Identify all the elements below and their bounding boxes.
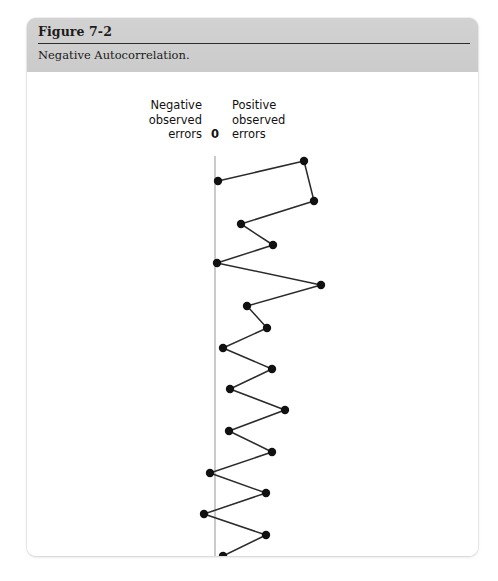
data-point	[262, 489, 270, 497]
data-point	[237, 220, 245, 228]
data-point	[226, 385, 234, 393]
data-point	[268, 448, 276, 456]
data-point	[262, 531, 270, 539]
error-series-line	[204, 161, 321, 556]
figure-caption: Negative Autocorrelation.	[38, 48, 190, 62]
figure-card: Figure 7-2 Negative Autocorrelation. Neg…	[27, 18, 478, 556]
data-point	[213, 259, 221, 267]
data-point	[200, 510, 208, 518]
data-point	[281, 406, 289, 414]
autocorrelation-chart	[27, 72, 478, 556]
data-point	[300, 157, 308, 165]
data-point	[268, 365, 276, 373]
figure-header: Figure 7-2 Negative Autocorrelation.	[27, 18, 478, 72]
data-point	[269, 241, 277, 249]
data-point	[206, 469, 214, 477]
data-point	[317, 281, 325, 289]
data-point	[243, 302, 251, 310]
data-point	[219, 552, 227, 556]
data-point	[219, 344, 227, 352]
figure-number: Figure 7-2	[38, 24, 112, 39]
header-divider	[38, 43, 470, 44]
data-point	[225, 427, 233, 435]
data-point	[310, 197, 318, 205]
data-point	[263, 324, 271, 332]
data-point	[214, 177, 222, 185]
plot-area: Negative observed errors 0 Positive obse…	[27, 72, 478, 556]
